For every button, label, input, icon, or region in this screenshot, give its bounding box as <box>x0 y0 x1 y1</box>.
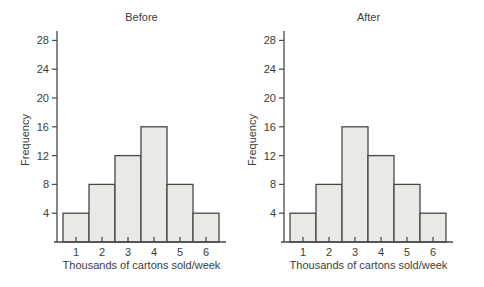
y-tick-label: 28 <box>264 34 276 46</box>
y-tick-label: 24 <box>264 63 276 75</box>
bar <box>167 184 193 242</box>
y-axis-label-after: Frequency <box>246 114 258 166</box>
y-tick-label: 28 <box>37 34 49 46</box>
x-axis-label-after: Thousands of cartons sold/week <box>284 259 453 271</box>
x-tick-label: 1 <box>300 246 306 258</box>
plots-canvas: 123456481216202428123456481216202428 <box>0 0 484 287</box>
x-tick-label: 3 <box>125 246 131 258</box>
bar <box>342 127 368 242</box>
x-axis-label-before: Thousands of cartons sold/week <box>57 259 226 271</box>
chart-title-after: After <box>284 11 453 23</box>
y-tick-label: 20 <box>37 92 49 104</box>
bar <box>141 127 167 242</box>
histogram-figure: 123456481216202428123456481216202428 Bef… <box>0 0 484 287</box>
x-tick-label: 5 <box>177 246 183 258</box>
bar <box>115 156 141 242</box>
x-tick-label: 6 <box>430 246 436 258</box>
x-tick-label: 4 <box>151 246 157 258</box>
x-tick-label: 2 <box>326 246 332 258</box>
y-tick-label: 16 <box>37 121 49 133</box>
x-tick-label: 3 <box>352 246 358 258</box>
y-tick-label: 4 <box>270 207 276 219</box>
x-tick-label: 4 <box>378 246 384 258</box>
y-tick-label: 12 <box>264 150 276 162</box>
bar <box>89 184 115 242</box>
y-tick-label: 4 <box>43 207 49 219</box>
y-tick-label: 24 <box>37 63 49 75</box>
bar <box>316 184 342 242</box>
x-tick-label: 1 <box>73 246 79 258</box>
y-tick-label: 20 <box>264 92 276 104</box>
y-axis-label-before: Frequency <box>19 114 31 166</box>
y-tick-label: 8 <box>43 178 49 190</box>
x-tick-label: 6 <box>203 246 209 258</box>
y-tick-label: 12 <box>37 150 49 162</box>
x-tick-label: 2 <box>99 246 105 258</box>
bar <box>394 184 420 242</box>
bar <box>368 156 394 242</box>
y-tick-label: 16 <box>264 121 276 133</box>
x-tick-label: 5 <box>404 246 410 258</box>
y-tick-label: 8 <box>270 178 276 190</box>
chart-title-before: Before <box>57 11 226 23</box>
